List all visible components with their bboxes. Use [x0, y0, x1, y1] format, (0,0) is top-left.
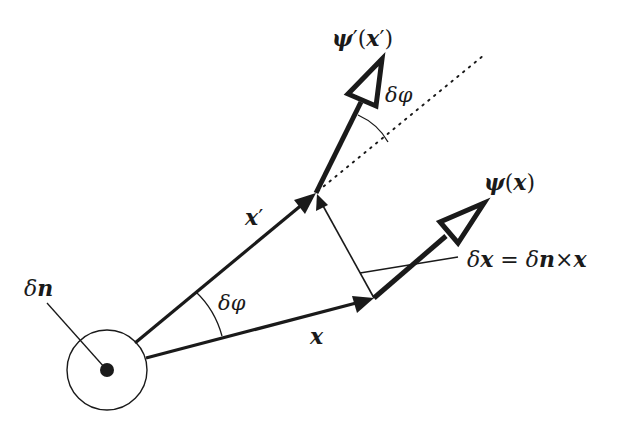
label-x: x [309, 323, 324, 349]
label-psi: ψ(x) [484, 169, 535, 195]
vector-x-prime-arrowhead-icon [294, 193, 316, 214]
psi-prime-hollow-arrowhead-icon [348, 59, 382, 106]
field-vector-psi-prime [316, 59, 382, 193]
label-delta-phi-top: δφ [385, 83, 413, 107]
label-delta-n: δn [24, 275, 53, 301]
rotation-diagram: ψ′(x′) δφ ψ(x) δx = δn×x x′ δφ x δn [0, 0, 626, 429]
label-delta-x-equation: δx = δn×x [467, 246, 587, 272]
dotted-reference-line [318, 55, 484, 191]
label-psi-prime: ψ′(x′) [332, 25, 393, 51]
vector-x-arrowhead-icon [352, 296, 374, 313]
vector-delta-x [316, 194, 374, 298]
vector-delta-x-arrowhead-icon [316, 194, 328, 211]
label-delta-phi-origin: δφ [218, 291, 246, 315]
delta-n-leader-line [47, 303, 105, 368]
label-x-prime: x′ [244, 204, 263, 230]
